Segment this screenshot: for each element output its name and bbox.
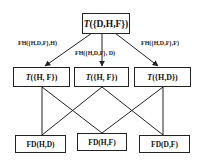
edge-label-d: FH({H,D,F}, D) [75,50,115,56]
node-label: ({H, F}) [91,73,118,82]
node-middle-right: T({H,D}) [134,67,191,87]
node-fd-hf: FD(H,F) [77,133,127,151]
node-label: ({H, F}) [31,73,58,82]
node-top-label: ({D,H,F}) [90,19,129,29]
node-middle-center: T({H, F}) [74,67,129,87]
node-middle-left: T({H, F}) [13,67,70,87]
node-fd-df: FD(D,F) [139,135,190,153]
node-fd-hd: FD(H,D) [15,135,66,153]
node-label: ({H,D}) [152,73,178,82]
edge-label-h: FH({H,D,F},H) [18,40,57,46]
edge-label-f: FH({H,D,F},F) [141,40,179,46]
arrow-top-to-right [115,33,158,66]
node-top: T({D,H,F}) [82,13,130,34]
diagram-canvas: T({D,H,F}) FH({H,D,F},H) FH({H,D,F}, D) … [0,0,202,166]
